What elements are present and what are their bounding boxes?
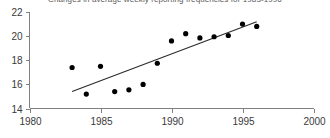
x-tick-label: 1990 xyxy=(161,116,184,127)
data-point xyxy=(169,38,174,43)
x-tick-label: 1985 xyxy=(90,116,113,127)
x-axis: 19801985199019952000 xyxy=(19,109,326,127)
data-point xyxy=(141,82,146,87)
y-tick-label: 18 xyxy=(11,55,23,66)
trend-line xyxy=(72,22,257,92)
data-point xyxy=(183,31,188,36)
data-point xyxy=(226,33,231,38)
data-point xyxy=(84,91,89,96)
y-tick-label: 16 xyxy=(11,79,23,90)
y-tick-marks xyxy=(26,13,30,110)
data-point xyxy=(254,24,259,29)
x-tick-label: 1980 xyxy=(19,116,42,127)
trend-line-group xyxy=(72,22,257,92)
y-tick-label: 14 xyxy=(11,104,23,115)
data-points-group xyxy=(70,21,260,96)
data-point xyxy=(112,89,117,94)
data-point xyxy=(126,87,131,92)
data-point xyxy=(98,64,103,69)
y-tick-labels: 1416182022 xyxy=(11,7,23,115)
y-tick-label: 20 xyxy=(11,31,23,42)
chart-figure: Changes in average weekly reporting freq… xyxy=(0,0,330,138)
x-tick-label: 2000 xyxy=(303,116,326,127)
data-point xyxy=(155,61,160,66)
y-axis: 1416182022 xyxy=(11,7,29,115)
x-tick-labels: 19801985199019952000 xyxy=(19,116,326,127)
data-point xyxy=(197,35,202,40)
x-tick-marks xyxy=(31,109,315,113)
data-point xyxy=(70,65,75,70)
y-tick-label: 22 xyxy=(11,7,23,18)
x-tick-label: 1995 xyxy=(232,116,255,127)
data-point xyxy=(212,34,217,39)
scatter-plot: 1416182022 19801985199019952000 xyxy=(0,0,330,138)
data-point xyxy=(240,21,245,26)
